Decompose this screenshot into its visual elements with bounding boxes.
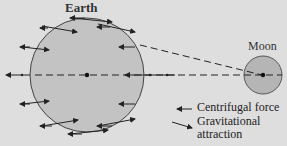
moon-center-dot <box>261 73 265 77</box>
moon-label: Moon <box>248 39 277 54</box>
tangent-line <box>140 45 262 75</box>
legend-gravitational-label: Gravitational attraction <box>197 115 260 141</box>
legend-gravitational-line2: attraction <box>197 128 260 141</box>
legend-centrifugal-label: Centrifugal force <box>197 100 279 115</box>
legend-gravitational-icon <box>172 122 192 128</box>
earth-label: Earth <box>65 0 98 16</box>
earth-center-dot <box>85 73 89 77</box>
